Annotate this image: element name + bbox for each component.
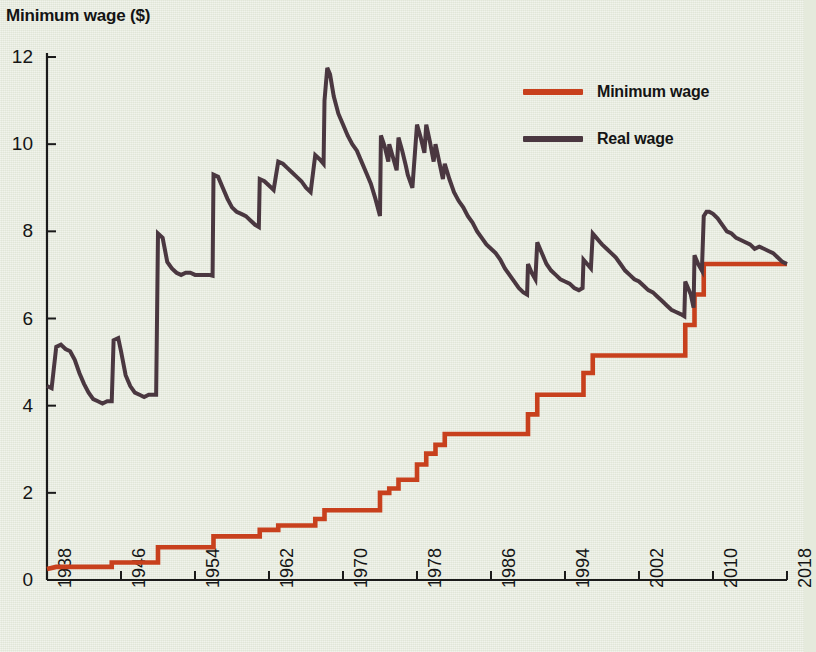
series-line-real-wage — [47, 68, 787, 404]
chart-series-layer — [47, 68, 787, 569]
